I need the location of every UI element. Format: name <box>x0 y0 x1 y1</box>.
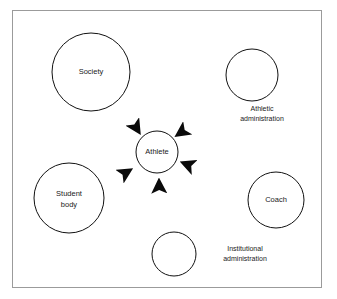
edge-institutional-administration-to-athlete <box>159 180 160 232</box>
node-athletic-administration[interactable]: Athletic administration <box>226 49 284 122</box>
node-society-label: Society <box>79 67 104 76</box>
node-institutional-administration-circle <box>152 232 196 276</box>
node-student-body-label-line1: Student <box>56 189 83 198</box>
node-athlete-label: Athlete <box>145 147 168 156</box>
node-institutional-administration-label-line2: administration <box>223 255 267 262</box>
edge-student-body-to-athlete <box>101 170 131 189</box>
node-student-body-circle <box>34 163 104 233</box>
node-institutional-administration-label-line1: Institutional <box>227 245 263 252</box>
node-athletic-administration-label-line2: administration <box>240 115 284 122</box>
node-institutional-administration[interactable]: Institutional administration <box>152 232 267 276</box>
node-student-body-label-line2: body <box>61 200 78 209</box>
edge-group <box>101 96 250 232</box>
node-athletic-administration-label-line1: Athletic <box>251 105 274 112</box>
node-coach-label: Coach <box>265 195 287 204</box>
node-society[interactable]: Society <box>52 33 130 111</box>
node-student-body[interactable]: Student body <box>34 163 104 233</box>
node-athletic-administration-circle <box>226 49 278 101</box>
node-coach[interactable]: Coach <box>248 172 304 228</box>
diagram-canvas: Society Athletic administration Coach In… <box>0 0 337 299</box>
influence-diagram: Society Athletic administration Coach In… <box>0 0 337 299</box>
edge-society-to-athlete <box>119 100 140 133</box>
node-athlete[interactable]: Athlete <box>136 131 178 173</box>
edge-athletic-administration-to-athlete <box>177 96 235 136</box>
edge-coach-to-athlete <box>182 163 250 190</box>
